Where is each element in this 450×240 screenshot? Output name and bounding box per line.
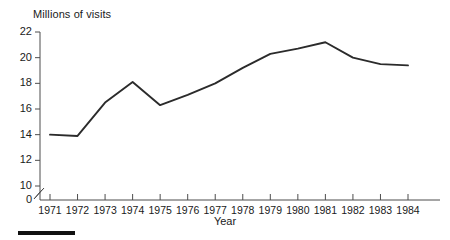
data-series-line <box>50 42 408 136</box>
y-tick-label: 22 <box>6 26 32 37</box>
y-axis-break-icon <box>34 188 44 199</box>
y-tick-label: 14 <box>6 129 32 140</box>
x-axis-title: Year <box>0 215 450 227</box>
y-tick-label: 20 <box>6 52 32 63</box>
x-tick-label: 1984 <box>391 205 425 216</box>
axis-lines <box>40 32 440 200</box>
y-tick-label: 10 <box>6 180 32 191</box>
y-tick-label: 16 <box>6 103 32 114</box>
footer-rule <box>18 231 75 235</box>
line-chart: Millions of visits 101214161820220 19711… <box>0 0 450 240</box>
y-tick-label: 12 <box>6 154 32 165</box>
y-origin-label: 0 <box>6 194 32 205</box>
y-tick-label: 18 <box>6 77 32 88</box>
